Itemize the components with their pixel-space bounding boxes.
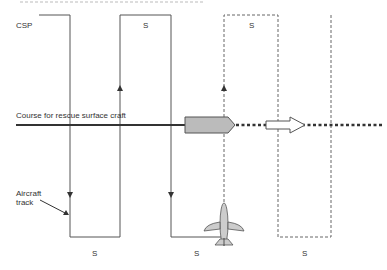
boat-icon — [185, 117, 235, 133]
arrow-down-icon — [67, 192, 73, 198]
aircraft-icon — [204, 203, 244, 246]
arrow-down-icon — [168, 192, 174, 198]
search-pattern-diagram — [0, 0, 387, 270]
aircraft-track-label-line1: Aircraft — [16, 189, 41, 198]
arrow-up-icon — [221, 85, 227, 91]
bottom-spacing-label-3: S — [302, 249, 307, 258]
aircraft-track-label-line2: track — [16, 198, 33, 207]
direction-arrow-icon — [266, 117, 305, 133]
bottom-spacing-label-2: S — [194, 249, 199, 258]
arrow-up-icon — [117, 85, 123, 91]
bottom-spacing-label-1: S — [92, 249, 97, 258]
course-label: Course for rescue surface craft — [16, 111, 126, 120]
aircraft-track-pointer — [40, 200, 69, 215]
csp-label: CSP — [16, 21, 32, 30]
top-spacing-label-1: S — [143, 21, 148, 30]
top-spacing-label-2: S — [249, 21, 254, 30]
